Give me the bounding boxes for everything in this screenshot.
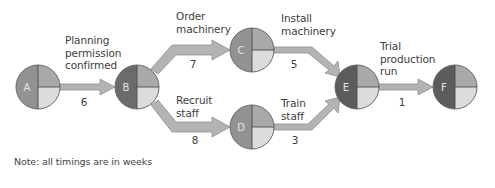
event-node-f: F [433,65,477,109]
arrow-c-to-e [274,47,340,77]
timing-note: Note: all timings are in weeks [14,156,152,167]
critical-path-network-diagram: ABCDEF Planning permission confirmed 6 O… [0,0,495,188]
node-label: C [238,45,245,56]
activity-label-b-c: Order machinery [176,10,231,35]
node-label: B [123,82,130,93]
event-node-d: D [230,105,274,149]
duration-a-b: 6 [77,96,91,108]
duration-b-c: 7 [186,58,200,70]
activity-label-b-d: Recruit staff [176,94,212,119]
activity-label-e-f: Trial production run [380,40,435,78]
event-node-a: A [16,65,60,109]
arrow-a-to-b [60,79,115,95]
duration-d-e: 3 [288,134,302,146]
activity-label-d-e: Train staff [281,97,306,122]
event-node-c: C [230,28,274,72]
duration-b-d: 8 [188,134,202,146]
event-node-e: E [335,65,379,109]
node-label: A [24,82,31,93]
node-label: D [237,122,245,133]
arrow-e-to-f [379,79,433,95]
node-label: E [343,82,349,93]
activity-label-c-e: Install machinery [281,12,336,37]
duration-c-e: 5 [287,58,301,70]
event-node-b: B [115,65,159,109]
activity-label-a-b: Planning permission confirmed [65,34,121,72]
duration-e-f: 1 [395,96,409,108]
node-label: F [441,82,447,93]
